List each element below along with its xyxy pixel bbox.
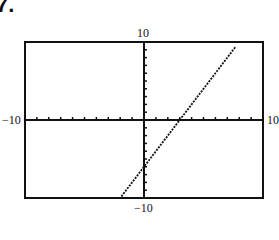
x-max-label: 10 (267, 114, 279, 126)
y-max-label: 10 (137, 27, 149, 39)
function-line (121, 47, 235, 197)
y-min-label: −10 (134, 202, 153, 214)
x-min-label: −10 (2, 114, 21, 126)
